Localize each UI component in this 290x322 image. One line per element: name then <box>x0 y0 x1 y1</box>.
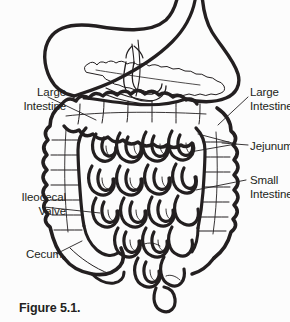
label-large-intestine-left: Large Intestine <box>4 86 66 113</box>
figure-container: Large Intestine Ileocecal Valve Cecum La… <box>0 0 290 322</box>
label-ileocecal-valve-line2: Valve <box>0 205 66 219</box>
leader-jejunum-branch-a <box>190 144 236 152</box>
small-intestine-coils <box>89 131 199 312</box>
label-small-intestine: Small Intestine <box>250 174 290 201</box>
label-jejunum: Jejunum <box>250 140 290 154</box>
label-cecum: Cecum <box>0 248 62 262</box>
label-jejunum-line1: Jejunum <box>250 140 290 154</box>
digestive-tract-illustration <box>0 0 290 322</box>
label-large-intestine-left-line2: Intestine <box>4 100 66 114</box>
label-ileocecal-valve-line1: Ileocecal <box>0 191 66 205</box>
label-large-intestine-right-line1: Large <box>250 86 290 100</box>
label-large-intestine-right: Large Intestine <box>250 86 290 113</box>
label-small-intestine-line1: Small <box>250 174 290 188</box>
figure-caption: Figure 5.1. <box>19 301 80 315</box>
label-cecum-line1: Cecum <box>0 248 62 262</box>
sigmoid-colon <box>192 228 214 274</box>
label-small-intestine-line2: Intestine <box>250 188 290 202</box>
label-ileocecal-valve: Ileocecal Valve <box>0 191 66 218</box>
label-large-intestine-left-line1: Large <box>4 86 66 100</box>
label-large-intestine-right-line2: Intestine <box>250 100 290 114</box>
stomach-outline <box>45 0 239 105</box>
